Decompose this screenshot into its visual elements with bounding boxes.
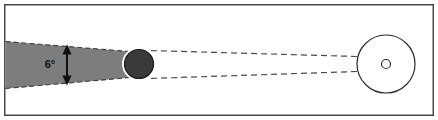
occulting-body xyxy=(122,47,156,81)
diagram-root: 6° xyxy=(0,0,438,120)
angle-label: 6° xyxy=(45,58,56,70)
occulting-body-circle xyxy=(125,50,154,79)
shadow-cone-diagram: 6° xyxy=(0,0,438,120)
light-source-center-dot-icon xyxy=(382,60,391,69)
light-source xyxy=(357,35,415,93)
